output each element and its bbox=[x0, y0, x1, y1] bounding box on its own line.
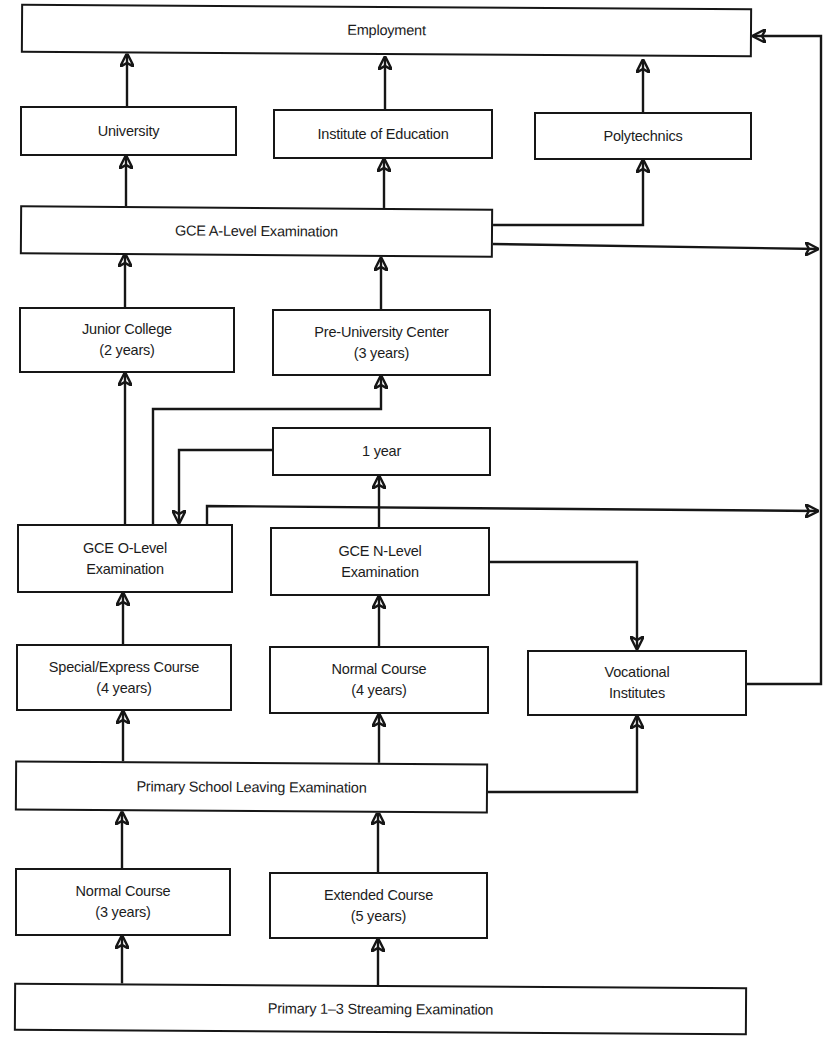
normal-course-3-label: Normal Course bbox=[76, 881, 171, 902]
gce-o-level-label: GCE O-Level bbox=[83, 538, 167, 559]
junior-college-duration: (2 years) bbox=[99, 340, 154, 361]
pre-university-center-box: Pre-University Center (3 years) bbox=[272, 309, 491, 376]
gce-a-level-box: GCE A-Level Examination bbox=[20, 205, 493, 257]
institute-of-education-label: Institute of Education bbox=[317, 124, 448, 145]
streaming-exam-box: Primary 1–3 Streaming Examination bbox=[14, 983, 747, 1035]
normal-course-3-duration: (3 years) bbox=[95, 902, 150, 923]
arrow-psle-to-vocational bbox=[487, 716, 637, 792]
arrow-o-level-to-employment-bus bbox=[207, 506, 818, 525]
polytechnics-box: Polytechnics bbox=[534, 112, 752, 160]
polytechnics-label: Polytechnics bbox=[604, 126, 683, 147]
extended-course-duration: (5 years) bbox=[351, 906, 406, 927]
one-year-label: 1 year bbox=[362, 441, 401, 462]
streaming-exam-label: Primary 1–3 Streaming Examination bbox=[268, 998, 494, 1020]
normal-course-3-box: Normal Course (3 years) bbox=[15, 868, 231, 936]
junior-college-box: Junior College (2 years) bbox=[19, 307, 235, 373]
special-express-course-box: Special/Express Course (4 years) bbox=[16, 644, 232, 711]
pre-university-center-label: Pre-University Center bbox=[314, 322, 448, 343]
university-box: University bbox=[20, 106, 237, 156]
pre-university-center-duration: (3 years) bbox=[354, 343, 409, 364]
extended-course-label: Extended Course bbox=[324, 885, 433, 906]
vocational-institutes-label: Vocational bbox=[605, 662, 670, 683]
normal-course-4-duration: (4 years) bbox=[351, 680, 406, 701]
institute-of-education-box: Institute of Education bbox=[273, 109, 493, 159]
normal-course-4-box: Normal Course (4 years) bbox=[269, 646, 489, 714]
gce-o-level-box: GCE O-Level Examination bbox=[17, 524, 233, 593]
arrow-a-level-to-polytechnics bbox=[492, 160, 643, 225]
one-year-box: 1 year bbox=[272, 427, 491, 476]
psle-label: Primary School Leaving Examination bbox=[136, 776, 366, 798]
arrow-a-level-to-employment-bus bbox=[492, 244, 818, 249]
education-system-flowchart: Employment University Institute of Educa… bbox=[0, 0, 830, 1050]
arrow-one-year-to-o-level bbox=[179, 450, 272, 523]
gce-a-level-label: GCE A-Level Examination bbox=[175, 220, 338, 242]
normal-course-4-label: Normal Course bbox=[332, 659, 427, 680]
special-express-course-duration: (4 years) bbox=[96, 678, 151, 699]
extended-course-box: Extended Course (5 years) bbox=[269, 872, 488, 939]
gce-o-level-label-2: Examination bbox=[86, 559, 164, 580]
vocational-institutes-label-2: Institutes bbox=[609, 683, 665, 704]
arrow-n-level-to-vocational bbox=[489, 562, 637, 649]
gce-n-level-box: GCE N-Level Examination bbox=[270, 527, 490, 596]
employment-bus-line bbox=[746, 36, 821, 684]
university-label: University bbox=[98, 121, 160, 142]
employment-box: Employment bbox=[21, 4, 752, 57]
vocational-institutes-box: Vocational Institutes bbox=[527, 650, 747, 716]
employment-label: Employment bbox=[347, 20, 426, 41]
special-express-course-label: Special/Express Course bbox=[49, 657, 199, 678]
junior-college-label: Junior College bbox=[82, 319, 172, 340]
gce-n-level-label: GCE N-Level bbox=[338, 541, 421, 562]
gce-n-level-label-2: Examination bbox=[341, 562, 419, 583]
psle-box: Primary School Leaving Examination bbox=[15, 761, 488, 814]
